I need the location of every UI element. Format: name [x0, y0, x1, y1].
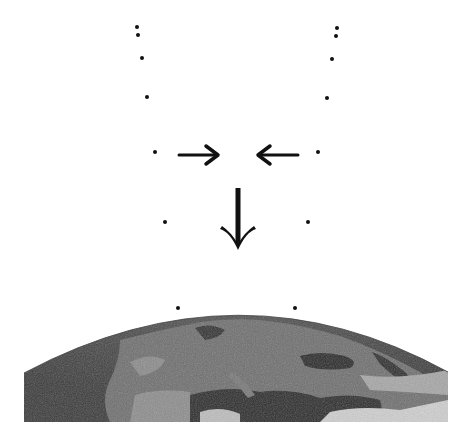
convergence-diagram [0, 0, 471, 444]
dot-marker [135, 25, 139, 29]
left-arrow-icon [258, 146, 298, 164]
dot-marker [334, 34, 338, 38]
right-arrow-icon [179, 146, 218, 164]
earth-image [24, 300, 448, 425]
dot-marker [140, 56, 144, 60]
dot-marker [325, 96, 329, 100]
dot-marker [335, 26, 339, 30]
right-dot-column [293, 26, 339, 310]
dot-marker [145, 95, 149, 99]
dot-marker [136, 33, 140, 37]
dot-marker [330, 57, 334, 61]
down-arrow-icon [220, 188, 256, 250]
dot-marker [306, 220, 310, 224]
dot-marker [163, 220, 167, 224]
dot-marker [176, 306, 180, 310]
dot-marker [293, 306, 297, 310]
dot-marker [153, 150, 157, 154]
dot-marker [316, 150, 320, 154]
left-dot-column [135, 25, 180, 310]
